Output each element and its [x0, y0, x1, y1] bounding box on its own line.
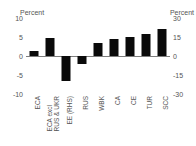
category-label: EE (RHS)	[66, 96, 73, 125]
bar-series	[26, 18, 170, 94]
y-tick-label-right: -15	[173, 72, 183, 79]
bar[interactable]	[62, 56, 71, 81]
bar[interactable]	[46, 38, 55, 56]
category-label: TUR	[146, 96, 153, 109]
y-tick-label-left: -5	[17, 72, 23, 79]
y-tick-label-left: 0	[19, 53, 23, 60]
bar[interactable]	[78, 56, 87, 64]
y-tick-label-right: 0	[173, 53, 177, 60]
bar[interactable]	[126, 37, 135, 56]
left-axis-caption: Percent	[20, 9, 44, 17]
bar[interactable]	[158, 29, 167, 56]
bar-slot	[154, 18, 170, 94]
bar-slot	[138, 18, 154, 94]
bar[interactable]	[142, 34, 151, 56]
category-label-slot: SCC	[154, 96, 170, 146]
bar-slot	[106, 18, 122, 94]
bar-slot	[58, 18, 74, 94]
bar-slot	[122, 18, 138, 94]
category-label: CE	[130, 96, 137, 105]
bar-chart: Percent Percent 1050-5-10 30150-15-30 EC…	[0, 0, 196, 146]
y-tick-label-left: 5	[19, 34, 23, 41]
category-label: WBK	[98, 96, 105, 111]
category-label: CA	[114, 96, 121, 105]
category-label: SCC	[162, 96, 169, 110]
category-axis-labels: ECAECA exclRUS & UKREE (RHS)RUSWBKCACETU…	[26, 96, 170, 146]
bar-slot	[42, 18, 58, 94]
bar[interactable]	[94, 43, 103, 56]
bar-slot	[90, 18, 106, 94]
bar-slot	[26, 18, 42, 94]
y-tick-label-right: 30	[173, 15, 181, 22]
category-label-slot: RUS	[74, 96, 90, 146]
category-label-slot: EE (RHS)	[58, 96, 74, 146]
category-label: RUS	[82, 96, 89, 110]
bar[interactable]	[110, 39, 119, 56]
category-label-slot: ECA exclRUS & UKR	[42, 96, 58, 146]
category-label: ECA	[34, 96, 41, 109]
plot-area: 1050-5-10 30150-15-30	[26, 18, 170, 94]
category-label-slot: WBK	[90, 96, 106, 146]
category-label-slot: ECA	[26, 96, 42, 146]
y-tick-label-right: -30	[173, 91, 183, 98]
category-label-slot: TUR	[138, 96, 154, 146]
category-label-slot: CE	[122, 96, 138, 146]
bar[interactable]	[30, 51, 39, 56]
y-tick-label-left: -10	[13, 91, 23, 98]
category-label-slot: CA	[106, 96, 122, 146]
bar-slot	[74, 18, 90, 94]
y-tick-label-right: 15	[173, 34, 181, 41]
y-tick-label-left: 10	[15, 15, 23, 22]
